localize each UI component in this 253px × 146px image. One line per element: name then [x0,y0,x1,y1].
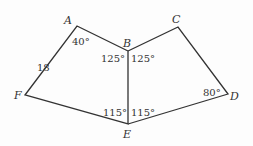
angle-B-left: 125° [101,53,125,64]
angle-B-right: 125° [131,53,155,64]
angle-E-right: 115° [131,107,155,118]
vertex-label-A: A [63,14,72,27]
vertex-label-F: F [13,89,22,102]
vertex-label-B: B [122,37,131,50]
vertex-label-D: D [229,90,239,103]
angle-E-left: 115° [103,107,127,118]
vertex-label-E: E [122,128,131,141]
angle-D: 80° [203,87,221,98]
angle-A: 40° [72,36,90,47]
two-quadrilaterals-diagram: A B C D E F 40° 125° 125° 115° 115° 80° … [0,0,253,146]
geometry-figure: A B C D E F 40° 125° 125° 115° 115° 80° … [0,0,253,146]
vertex-label-C: C [172,13,181,26]
side-AF-length: 18 [37,62,50,73]
